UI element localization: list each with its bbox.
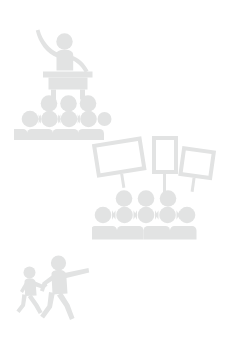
illustration-canvas <box>0 0 230 356</box>
illustration-two-walking-figures <box>12 252 102 336</box>
audience-back-row <box>41 95 97 112</box>
audience-middle-row <box>22 111 112 128</box>
placard-left <box>92 136 149 191</box>
large-walking-figure <box>40 255 89 320</box>
placard-right <box>176 146 216 194</box>
illustration-speaker-addressing-audience <box>14 24 114 140</box>
audience-front-row <box>14 129 104 140</box>
placard-center <box>152 136 178 200</box>
speaker-figure <box>36 30 89 73</box>
crowd-back-row <box>116 190 177 207</box>
crowd-front-row <box>92 226 197 240</box>
crowd-middle-row <box>95 207 196 224</box>
illustration-protest-crowd-with-placards <box>92 134 218 250</box>
